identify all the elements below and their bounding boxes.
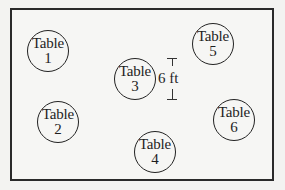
table-number: 6 xyxy=(230,120,237,135)
table-number: 2 xyxy=(54,122,61,137)
table-number: 4 xyxy=(151,152,158,167)
table-label: Table xyxy=(119,64,151,79)
table-label: Table xyxy=(32,36,64,51)
dimension-top-line xyxy=(172,58,173,66)
table-1: Table 1 xyxy=(27,30,69,72)
table-label: Table xyxy=(42,107,74,122)
table-3: Table 3 xyxy=(114,58,156,100)
table-2: Table 2 xyxy=(37,101,79,143)
dimension-label: 6 ft xyxy=(158,70,178,87)
table-number: 5 xyxy=(209,44,216,59)
table-5: Table 5 xyxy=(192,23,234,65)
table-label: Table xyxy=(139,137,171,152)
table-label: Table xyxy=(218,105,250,120)
table-label: Table xyxy=(197,29,229,44)
dimension-bottom-tick xyxy=(167,99,177,100)
table-6: Table 6 xyxy=(213,99,255,141)
table-4: Table 4 xyxy=(134,131,176,173)
dimension-bottom-line xyxy=(172,89,173,99)
table-number: 3 xyxy=(131,79,138,94)
table-number: 1 xyxy=(44,51,51,66)
